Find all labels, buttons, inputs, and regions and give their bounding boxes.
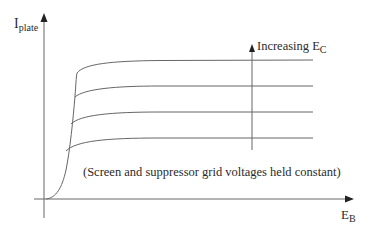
y-axis-label: Iplate [14,16,39,33]
x-axis-arrowhead-icon [345,196,354,203]
x-axis [34,196,354,203]
curve-4 [66,138,313,151]
curve-1 [77,60,313,73]
plate-characteristics-diagram: Iplate EB Increasing EC (Screen and supp… [0,0,372,230]
curve-3 [71,112,313,124]
increasing-arrowhead-icon [249,44,255,52]
increasing-ec-label: Increasing EC [257,39,327,55]
rising-edge [46,73,77,199]
x-axis-label: EB [341,207,356,224]
y-axis-arrowhead-icon [41,13,48,22]
constant-voltages-note: (Screen and suppressor grid voltages hel… [83,165,341,179]
y-axis [41,13,48,218]
curve-2 [75,86,313,97]
